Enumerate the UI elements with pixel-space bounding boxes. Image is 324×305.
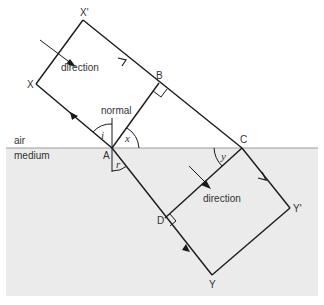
refraction-diagram: X' X A B C D Y Y' normal direction direc… xyxy=(0,0,324,305)
label-direction-incident: direction xyxy=(61,62,99,73)
label-Xprime: X' xyxy=(80,7,89,18)
ray-arrow-Xprime xyxy=(118,58,126,66)
label-B: B xyxy=(156,70,163,81)
label-Yprime: Y' xyxy=(293,203,302,214)
angle-label-i: i xyxy=(101,129,104,141)
label-air: air xyxy=(14,135,26,146)
right-angle-B xyxy=(153,89,167,97)
label-X: X xyxy=(27,79,34,90)
label-C: C xyxy=(240,134,247,145)
angle-label-r: r xyxy=(116,158,121,170)
angle-label-x: x xyxy=(124,132,130,144)
label-direction-refracted: direction xyxy=(203,193,241,204)
direction-arrow-incident xyxy=(40,40,72,64)
label-medium: medium xyxy=(14,150,50,161)
label-Y: Y xyxy=(209,279,216,290)
incident-wavefront xyxy=(36,20,242,148)
label-D: D xyxy=(157,215,164,226)
angle-label-y: y xyxy=(220,150,226,162)
label-normal: normal xyxy=(101,105,132,116)
label-A: A xyxy=(103,150,110,161)
